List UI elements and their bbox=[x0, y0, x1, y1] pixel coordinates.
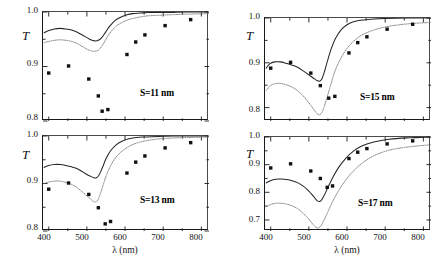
data-point bbox=[134, 40, 137, 43]
curve-theory-solid-s15 bbox=[266, 18, 431, 81]
x-tick-600-s17: 600 bbox=[330, 232, 354, 242]
curve-theory-dotted-s15 bbox=[266, 22, 431, 114]
data-point bbox=[189, 18, 192, 21]
y-tick-1.0-s13: 1.0 bbox=[10, 129, 38, 139]
data-point bbox=[411, 139, 414, 142]
data-point bbox=[347, 51, 350, 54]
data-point bbox=[47, 188, 50, 191]
data-point bbox=[269, 66, 272, 69]
y-tick-0.9-s15: 0.9 bbox=[230, 57, 260, 67]
panel-annotation-s11: S=11 nm bbox=[140, 88, 174, 98]
data-point bbox=[125, 53, 128, 56]
data-point bbox=[87, 77, 90, 80]
x-tick-800-s17: 800 bbox=[406, 232, 430, 242]
data-point bbox=[327, 96, 330, 99]
panel-s11: T 1.0 0.9 0.8 S=11 nm bbox=[0, 0, 222, 133]
data-point bbox=[365, 35, 368, 38]
data-point bbox=[143, 33, 146, 36]
x-axis-title-s13: λ (nm) bbox=[90, 245, 160, 255]
data-point bbox=[289, 162, 292, 165]
x-tick-500-s13: 500 bbox=[70, 232, 94, 242]
curve-theory-dotted-s11 bbox=[44, 14, 209, 52]
data-point bbox=[143, 154, 146, 157]
data-point bbox=[100, 109, 103, 112]
axis-ticks-s17 bbox=[265, 137, 431, 231]
data-point bbox=[356, 41, 359, 44]
plot-area-s13 bbox=[42, 135, 208, 230]
data-point bbox=[347, 157, 350, 160]
plot-canvas-s15 bbox=[265, 18, 431, 121]
data-point bbox=[97, 94, 100, 97]
data-points-s17 bbox=[269, 139, 414, 189]
panel-annotation-s15: S=15 nm bbox=[360, 92, 394, 102]
y-tick-1.0-s17: 1.0 bbox=[230, 130, 260, 140]
data-point bbox=[385, 142, 388, 145]
data-point bbox=[104, 222, 107, 225]
y-axis-title-s15: T bbox=[246, 28, 253, 44]
data-point bbox=[326, 186, 329, 189]
data-point bbox=[309, 71, 312, 74]
data-point bbox=[163, 24, 166, 27]
x-axis-title-s17: λ (nm) bbox=[312, 245, 382, 255]
panel-annotation-s13: S=13 nm bbox=[140, 195, 174, 205]
data-point bbox=[67, 181, 70, 184]
panel-annotation-s17: S=17 nm bbox=[358, 198, 392, 208]
data-point bbox=[87, 193, 90, 196]
data-point bbox=[106, 108, 109, 111]
plot-area-s17 bbox=[264, 136, 430, 230]
data-point bbox=[333, 95, 336, 98]
y-axis-title-s13: T bbox=[22, 147, 29, 163]
data-point bbox=[319, 177, 322, 180]
data-point bbox=[163, 146, 166, 149]
plot-canvas-s11 bbox=[43, 12, 209, 121]
data-point bbox=[269, 166, 272, 169]
y-tick-0.8-s15: 0.8 bbox=[230, 104, 260, 114]
plot-canvas-s17 bbox=[265, 137, 431, 231]
x-tick-700-s17: 700 bbox=[368, 232, 392, 242]
y-tick-1.0-s15: 1.0 bbox=[230, 11, 260, 21]
data-points-s11 bbox=[47, 18, 192, 113]
data-point bbox=[385, 28, 388, 31]
data-point bbox=[411, 23, 414, 26]
data-point bbox=[309, 169, 312, 172]
data-point bbox=[97, 206, 100, 209]
y-tick-0.9-s11: 0.9 bbox=[10, 58, 38, 68]
data-point bbox=[134, 160, 137, 163]
x-tick-400-s17: 400 bbox=[254, 232, 278, 242]
panel-s17: T 1.0 0.9 0.8 0.7 S=17 nm 400 500 600 70… bbox=[222, 133, 444, 266]
curve-theory-solid-s11 bbox=[44, 12, 209, 41]
x-tick-800-s13: 800 bbox=[184, 232, 208, 242]
y-tick-0.9-s17: 0.9 bbox=[230, 158, 260, 168]
y-tick-0.7-s17: 0.7 bbox=[230, 214, 260, 224]
data-point bbox=[47, 71, 50, 74]
x-tick-500-s17: 500 bbox=[292, 232, 316, 242]
x-tick-400-s13: 400 bbox=[32, 232, 56, 242]
y-tick-0.8-s17: 0.8 bbox=[230, 186, 260, 196]
plot-canvas-s13 bbox=[43, 136, 209, 231]
data-point bbox=[331, 184, 334, 187]
panel-s15: T 1.0 0.9 0.8 S=15 nm bbox=[222, 0, 444, 133]
y-axis-title-s11: T bbox=[22, 28, 29, 44]
data-points-s15 bbox=[269, 23, 414, 100]
x-tick-600-s13: 600 bbox=[108, 232, 132, 242]
plot-area-s15 bbox=[264, 17, 430, 120]
data-point bbox=[356, 151, 359, 154]
axis-ticks-s15 bbox=[265, 18, 431, 121]
data-point bbox=[365, 147, 368, 150]
y-tick-0.8-s13: 0.8 bbox=[10, 222, 38, 232]
plot-area-s11 bbox=[42, 11, 208, 120]
data-point bbox=[125, 171, 128, 174]
data-point bbox=[189, 141, 192, 144]
data-point bbox=[67, 64, 70, 67]
figure-transmittance-panels: T 1.0 0.9 0.8 S=11 nm T 1.0 0.9 0.8 S=15… bbox=[0, 0, 444, 266]
data-point bbox=[289, 61, 292, 64]
y-tick-0.9-s13: 0.9 bbox=[10, 175, 38, 185]
data-point bbox=[319, 84, 322, 87]
curve-theory-solid-s17 bbox=[266, 137, 431, 201]
curve-theory-dotted-s13 bbox=[44, 137, 209, 202]
y-tick-1.0-s11: 1.0 bbox=[10, 5, 38, 15]
data-point bbox=[109, 220, 112, 223]
y-tick-0.8-s11: 0.8 bbox=[10, 112, 38, 122]
panel-s13: T 1.0 0.9 0.8 S=13 nm 400 500 600 700 80… bbox=[0, 133, 222, 266]
x-tick-700-s13: 700 bbox=[146, 232, 170, 242]
